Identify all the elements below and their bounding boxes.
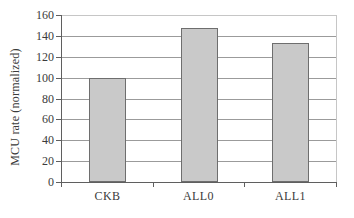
x-category-label: CKB xyxy=(62,189,153,204)
y-tick-label: 20 xyxy=(18,153,54,169)
y-axis-line xyxy=(61,15,62,183)
y-tick-label: 160 xyxy=(18,7,54,23)
plot-border-top xyxy=(62,15,337,16)
x-axis-line xyxy=(61,182,337,183)
bar-ckb xyxy=(89,78,126,182)
x-tick xyxy=(153,183,154,187)
bar-all1 xyxy=(272,43,309,182)
plot-border-right xyxy=(336,15,337,183)
y-tick-label: 40 xyxy=(18,132,54,148)
y-tick-label: 140 xyxy=(18,28,54,44)
bar-chart-figure: MCU rate (normalized) 020406080100120140… xyxy=(0,0,354,218)
y-tick-label: 60 xyxy=(18,111,54,127)
y-tick-label: 0 xyxy=(18,174,54,190)
x-tick xyxy=(244,183,245,187)
bar-all0 xyxy=(181,28,218,182)
x-tick xyxy=(61,183,62,187)
x-category-label: ALL0 xyxy=(153,189,244,204)
y-tick-label: 120 xyxy=(18,49,54,65)
y-tick-label: 80 xyxy=(18,91,54,107)
x-tick xyxy=(336,183,337,187)
x-category-label: ALL1 xyxy=(245,189,336,204)
y-tick-label: 100 xyxy=(18,70,54,86)
